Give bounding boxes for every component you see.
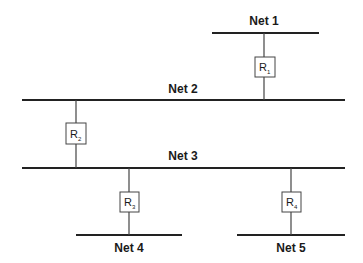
router-r2: R2 <box>66 100 86 168</box>
net-2-label: Net 2 <box>168 82 198 96</box>
net-2: Net 2 <box>22 82 345 100</box>
router-r3: R3 <box>120 168 139 235</box>
net-1: Net 1 <box>212 14 319 33</box>
net-1-label: Net 1 <box>249 14 279 28</box>
net-5: Net 5 <box>237 235 345 255</box>
net-5-label: Net 5 <box>276 241 306 255</box>
net-4-label: Net 4 <box>114 241 144 255</box>
network-diagram: Net 1 Net 2 Net 3 Net 4 Net 5 R1 R2 R3 <box>0 0 363 263</box>
net-3: Net 3 <box>22 149 345 168</box>
router-r1: R1 <box>255 33 275 100</box>
net-4: Net 4 <box>76 235 182 255</box>
net-3-label: Net 3 <box>168 149 198 163</box>
router-r4: R4 <box>282 168 301 235</box>
